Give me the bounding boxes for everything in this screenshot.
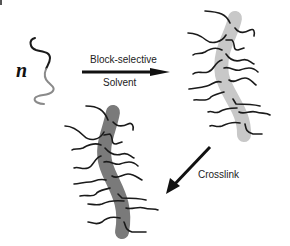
uncrosslinked-micelle: [188, 11, 270, 135]
diagram-graphics: [0, 0, 290, 246]
repeat-unit-label: n: [16, 60, 27, 80]
unimer-chain: [31, 38, 54, 104]
self-assembly-arrow: [82, 68, 170, 76]
micelle-core: [221, 18, 244, 135]
step2-label: Crosslink: [198, 170, 239, 180]
core-block-segment: [35, 69, 54, 104]
crosslinked-micelle: [65, 106, 158, 232]
figure-canvas: n Block-selective Solvent Crosslink: [0, 0, 290, 246]
step1-label-bottom: Solvent: [103, 78, 136, 88]
step1-label-top: Block-selective: [90, 55, 157, 65]
micelle-core: [104, 112, 123, 232]
corona-block-segment: [31, 38, 50, 69]
